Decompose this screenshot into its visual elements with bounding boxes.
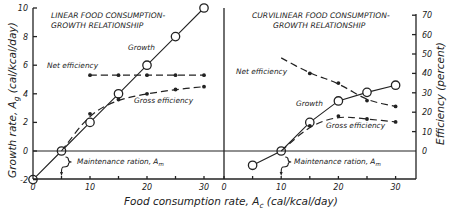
x-tick-label: 30 xyxy=(199,183,209,192)
maintenance-arrow-icon xyxy=(280,172,283,176)
gross-efficiency-marker xyxy=(117,98,121,102)
net-efficiency-marker xyxy=(117,73,121,77)
left-gross-efficiency-label: Gross efficiency xyxy=(134,96,194,105)
right-gross-efficiency-label: Gross efficiency xyxy=(326,121,386,130)
y-right-tick-label: 30 xyxy=(422,89,432,98)
net-efficiency-marker xyxy=(145,73,149,77)
left-net-efficiency-label: Net efficiency xyxy=(47,61,99,70)
gross-efficiency-marker xyxy=(337,114,341,118)
y-tick-label: 4 xyxy=(23,90,28,99)
left-growth-label: Growth xyxy=(128,43,155,52)
left-title-line2: GROWTH RELATIONSHIP xyxy=(51,21,144,30)
growth-marker xyxy=(86,118,94,126)
right-title-line2: GROWTH RELATIONSHIP xyxy=(273,21,366,30)
growth-marker xyxy=(114,90,122,98)
y-right-tick-label: 0 xyxy=(422,147,427,156)
y-right-tick-label: 60 xyxy=(422,31,432,40)
growth-marker xyxy=(363,88,371,96)
net-efficiency-marker xyxy=(174,73,178,77)
maintenance-brace-icon xyxy=(281,157,291,172)
net-efficiency-marker xyxy=(394,104,398,108)
y-tick-label: 2 xyxy=(23,118,28,127)
net-efficiency-marker xyxy=(308,72,312,76)
y-axis-label-left: Growth rate, Ag (cal/kcal/day) xyxy=(6,22,21,178)
right-maintenance-label: Maintenance ration, Am xyxy=(294,157,381,167)
y-tick-label: -2 xyxy=(20,176,28,185)
y-right-tick-label: 40 xyxy=(422,69,432,78)
right-growth-label: Growth xyxy=(296,99,323,108)
maintenance-arrow-icon xyxy=(60,172,63,176)
growth-marker xyxy=(171,32,179,40)
y-right-tick-label: 50 xyxy=(422,50,432,59)
x-tick-label: 20 xyxy=(333,183,343,192)
y-right-tick-label: 20 xyxy=(422,108,432,117)
x-tick-label: 30 xyxy=(391,183,401,192)
figure: 0102030 0102030 -20246810010203040506070… xyxy=(0,0,450,209)
gross-efficiency-marker xyxy=(394,120,398,124)
gross-efficiency-marker xyxy=(88,112,92,116)
left-title-line1: LINEAR FOOD CONSUMPTION- xyxy=(51,11,165,20)
y-right-tick-label: 10 xyxy=(422,128,432,137)
y-tick-label: 8 xyxy=(23,33,28,42)
x-tick-label: 10 xyxy=(85,183,95,192)
growth-marker xyxy=(200,4,208,12)
growth-marker xyxy=(248,161,256,169)
net-efficiency-marker xyxy=(365,99,369,103)
y-tick-label: 0 xyxy=(23,147,28,156)
right-title-line1: CURVILINEAR FOOD CONSUMPTION- xyxy=(252,11,390,20)
x-tick-label: 0 xyxy=(221,183,226,192)
maintenance-brace-icon xyxy=(62,157,72,172)
growth-marker xyxy=(143,61,151,69)
y-tick-label: 6 xyxy=(23,61,28,70)
gross-efficiency-marker xyxy=(174,88,178,92)
left-maintenance-label: Maintenance ration, Am xyxy=(77,157,164,167)
y-tick-label: 10 xyxy=(18,4,28,13)
y-axis-label-right: Efficiency (percent) xyxy=(434,42,446,145)
net-efficiency-marker xyxy=(88,73,92,77)
growth-marker xyxy=(391,81,399,89)
x-tick-label: 20 xyxy=(142,183,152,192)
net-efficiency-marker xyxy=(337,81,341,85)
right-net-efficiency-label: Net efficiency xyxy=(236,67,288,76)
growth-marker xyxy=(334,97,342,105)
x-tick-label: 10 xyxy=(276,183,286,192)
gross-efficiency-marker xyxy=(308,124,312,128)
x-axis-label: Food consumption rate, Ac (cal/kcal/day) xyxy=(124,195,338,209)
gross-efficiency-marker xyxy=(202,85,206,89)
y-right-tick-label: 70 xyxy=(422,11,432,20)
net-efficiency-marker xyxy=(202,73,206,77)
